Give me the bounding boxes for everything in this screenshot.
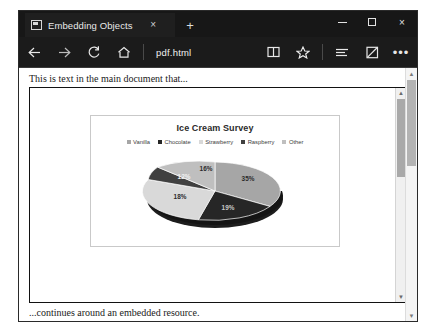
pie-label-vanilla: 35% <box>242 175 255 182</box>
legend-swatch-raspberry <box>241 140 245 144</box>
embedded-object-frame: Ice Cream Survey Vanilla Chocolate S <box>29 87 407 303</box>
legend-label-strawberry: Strawberry <box>205 139 233 145</box>
new-tab-button[interactable]: + <box>183 19 197 32</box>
url-text[interactable]: pdf.html <box>156 47 191 58</box>
window-controls: × <box>327 11 417 33</box>
pie-label-strawberry: 18% <box>174 193 187 200</box>
favorites-button[interactable] <box>288 37 318 67</box>
close-icon[interactable]: × <box>147 20 160 30</box>
page-scroll-down-button[interactable]: ▼ <box>406 310 417 321</box>
toolbar-divider <box>143 44 144 60</box>
legend-item-raspberry: Raspberry <box>241 139 274 145</box>
web-note-button[interactable] <box>357 37 387 67</box>
embedded-scroll-thumb[interactable] <box>397 99 405 177</box>
book-icon <box>267 46 280 58</box>
legend-item-chocolate: Chocolate <box>158 139 191 145</box>
legend-swatch-other <box>282 140 286 144</box>
page-scrollbar[interactable]: ▲ ▼ <box>405 68 417 321</box>
address-bar[interactable]: pdf.html <box>148 37 258 67</box>
maximize-icon <box>368 18 376 26</box>
star-icon <box>296 46 310 59</box>
page-icon <box>31 20 42 30</box>
document-text-below: ...continues around an embedded resource… <box>19 303 417 321</box>
pie-label-other: 16% <box>200 165 213 172</box>
legend-item-other: Other <box>282 139 303 145</box>
legend-label-chocolate: Chocolate <box>165 139 191 145</box>
page-content: This is text in the main document that..… <box>19 67 417 321</box>
minimize-button[interactable] <box>327 11 357 33</box>
tab-title: Embedding Objects <box>48 20 133 31</box>
maximize-button[interactable] <box>357 11 387 33</box>
forward-arrow-icon <box>57 46 72 59</box>
back-arrow-icon <box>27 46 42 59</box>
minimize-icon <box>338 22 347 23</box>
chart-title: Ice Cream Survey <box>91 116 339 133</box>
screenshot-root: Embedding Objects × + × <box>0 0 436 332</box>
legend-swatch-chocolate <box>158 140 162 144</box>
forward-button[interactable] <box>49 37 79 67</box>
refresh-button[interactable] <box>79 37 109 67</box>
more-button[interactable]: ••• <box>387 46 415 59</box>
document-text-above: This is text in the main document that..… <box>19 68 417 87</box>
window-close-button[interactable]: × <box>387 11 417 33</box>
legend-label-other: Other <box>289 139 304 145</box>
legend-swatch-vanilla <box>127 140 131 144</box>
browser-window: Embedding Objects × + × <box>18 10 418 322</box>
home-icon <box>117 46 131 59</box>
legend-item-strawberry: Strawberry <box>199 139 234 145</box>
pie-label-chocolate: 19% <box>222 204 235 211</box>
legend-label-vanilla: Vanilla <box>133 139 150 145</box>
pie-chart: 35% 19% 18% 12% 16% <box>130 147 300 235</box>
pie-label-raspberry: 12% <box>178 173 191 180</box>
pencil-note-icon <box>366 46 379 59</box>
chart-legend: Vanilla Chocolate Strawberry Raspbe <box>91 139 339 145</box>
tab-strip: Embedding Objects × + × <box>19 11 417 37</box>
hub-button[interactable] <box>327 37 357 67</box>
legend-item-vanilla: Vanilla <box>127 139 150 145</box>
pie-svg: 35% 19% 18% 12% 16% <box>130 147 300 235</box>
page-scroll-up-button[interactable]: ▲ <box>406 68 417 79</box>
home-button[interactable] <box>109 37 139 67</box>
toolbar-right-group: ••• <box>258 37 417 67</box>
tab-embedding-objects[interactable]: Embedding Objects × <box>25 13 175 37</box>
legend-label-raspberry: Raspberry <box>248 139 275 145</box>
hub-lines-icon <box>335 47 349 58</box>
page-scroll-thumb[interactable] <box>407 80 416 166</box>
browser-toolbar: pdf.html <box>19 37 417 67</box>
reading-view-button[interactable] <box>258 37 288 67</box>
back-button[interactable] <box>19 37 49 67</box>
refresh-icon <box>87 45 101 59</box>
chart-card: Ice Cream Survey Vanilla Chocolate S <box>90 115 340 247</box>
legend-swatch-strawberry <box>199 140 203 144</box>
toolbar-divider-2 <box>322 44 323 60</box>
